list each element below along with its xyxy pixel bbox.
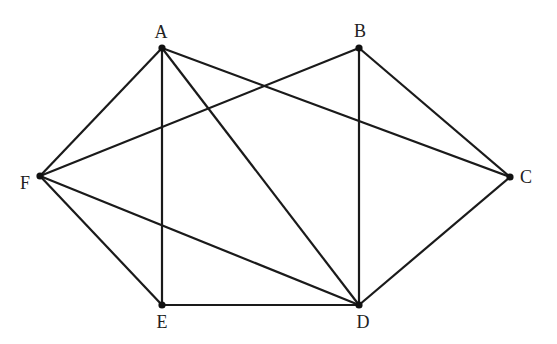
labels-group: ABCDEF	[20, 21, 532, 332]
node-label-b: B	[354, 21, 366, 41]
edges-group	[40, 48, 510, 305]
node-b	[355, 44, 362, 51]
edge-b-c	[359, 48, 510, 177]
node-e	[158, 301, 165, 308]
node-label-d: D	[357, 312, 370, 332]
node-d	[355, 301, 362, 308]
edge-a-f	[40, 48, 162, 176]
edge-f-d	[40, 176, 359, 305]
node-label-f: F	[20, 173, 30, 193]
node-label-c: C	[520, 167, 532, 187]
edge-c-d	[359, 177, 510, 305]
edge-f-e	[40, 176, 162, 305]
node-f	[36, 172, 43, 179]
node-c	[506, 173, 513, 180]
node-label-a: A	[155, 22, 168, 42]
nodes-group	[36, 44, 513, 308]
node-a	[158, 44, 165, 51]
edge-b-f	[40, 48, 359, 176]
node-label-e: E	[157, 312, 168, 332]
graph-diagram: ABCDEF	[0, 0, 557, 344]
edge-a-c	[162, 48, 510, 177]
